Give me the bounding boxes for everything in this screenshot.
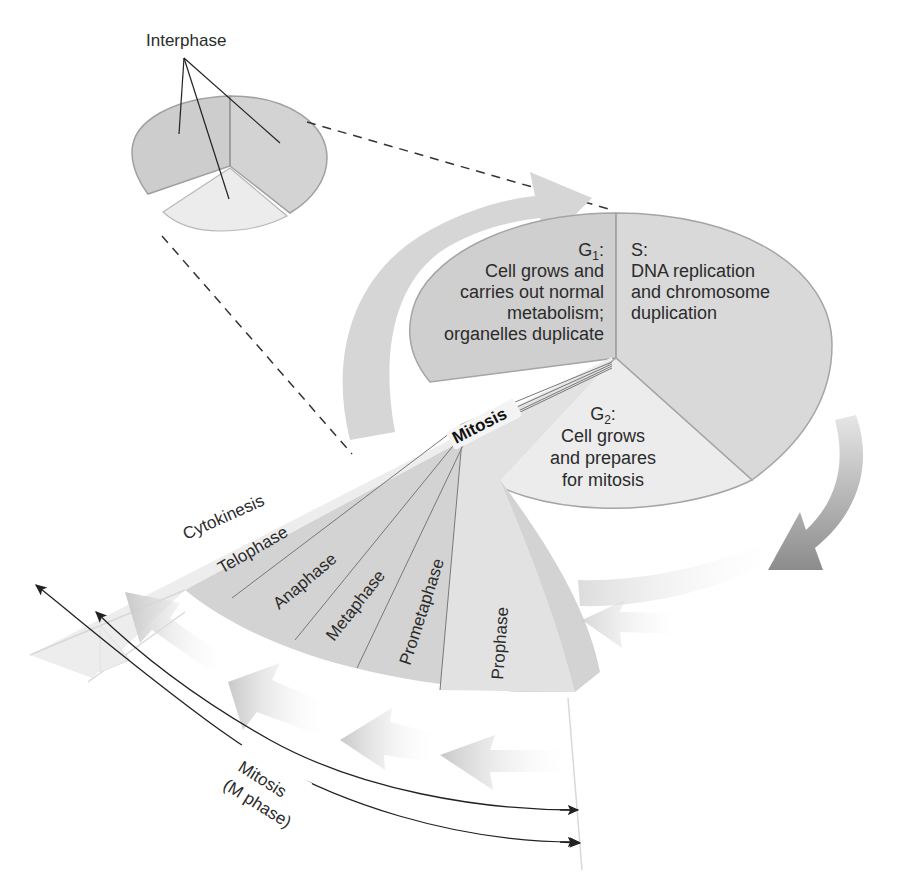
svg-text:Cell grows and: Cell grows and xyxy=(485,261,604,281)
svg-text:duplication: duplication xyxy=(631,303,717,323)
svg-text:G2:: G2: xyxy=(590,404,616,427)
svg-text:DNA replication: DNA replication xyxy=(631,261,755,281)
interphase-label: Interphase xyxy=(146,31,226,50)
phase-cytokinesis: Cytokinesis xyxy=(180,491,267,544)
cell-cycle-diagram: Interphase xyxy=(0,0,897,876)
svg-text:for mitosis: for mitosis xyxy=(562,470,644,490)
svg-text:and prepares: and prepares xyxy=(550,448,656,468)
svg-text:organelles duplicate: organelles duplicate xyxy=(444,324,604,344)
zoom-dashed-line-bottom xyxy=(162,236,352,454)
svg-text:carries out normal: carries out normal xyxy=(460,282,604,302)
svg-text:and chromosome: and chromosome xyxy=(631,282,770,302)
svg-text:Cell grows: Cell grows xyxy=(561,426,645,446)
svg-text:metabolism;: metabolism; xyxy=(507,303,604,323)
mitosis-fan xyxy=(30,357,612,870)
interphase-inset: Interphase xyxy=(132,31,327,231)
svg-text:G1:: G1: xyxy=(578,240,604,263)
cycle-arrow-bottom-band xyxy=(578,545,775,606)
svg-text:S:: S: xyxy=(631,240,648,260)
